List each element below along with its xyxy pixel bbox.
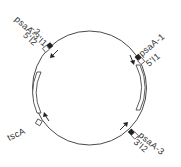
- circular-gene-map: psaA-3'I1 -2 5'I2 psaA-1 5'I1 psaA-3 3'I…: [0, 0, 181, 167]
- arrow-up-icon: [43, 112, 49, 121]
- label-tscA: tscA: [6, 126, 27, 143]
- left-gene-box: [33, 72, 41, 113]
- left-marker: [35, 119, 42, 126]
- arrow-up-right-icon: [120, 122, 128, 130]
- arrow-down-left-icon: [50, 50, 58, 58]
- arrow-down-icon: [130, 55, 135, 65]
